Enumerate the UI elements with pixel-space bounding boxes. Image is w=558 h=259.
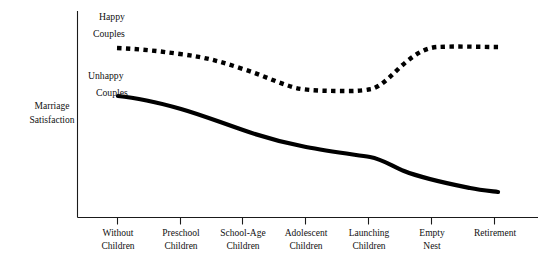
y-axis-title: Marriage Satisfaction	[10, 100, 94, 127]
series-happy-couples-line	[117, 47, 500, 91]
series-label-unhappy-couples: Unhappy Couples	[88, 67, 162, 101]
series-label-happy-couples: Happy Couples	[93, 8, 163, 42]
chart-figure: Marriage Satisfaction Happy Couples Unha…	[0, 0, 558, 259]
series-unhappy-couples-line	[118, 96, 498, 192]
x-tick-label-line1: Retirement	[455, 227, 535, 240]
x-tick-label-retirement: Retirement	[455, 227, 535, 240]
series-label-unhappy-line1: Unhappy	[88, 67, 162, 84]
series-label-unhappy-line2: Couples	[96, 84, 162, 101]
x-tick-label-line2: Nest	[392, 240, 472, 253]
y-axis-title-line1: Marriage	[10, 100, 94, 114]
y-axis-title-line2: Satisfaction	[10, 114, 94, 128]
x-axis-ticks	[118, 218, 495, 225]
chart-canvas	[0, 0, 558, 259]
series-label-happy-line2: Couples	[93, 25, 163, 42]
series-label-happy-line1: Happy	[99, 8, 163, 25]
